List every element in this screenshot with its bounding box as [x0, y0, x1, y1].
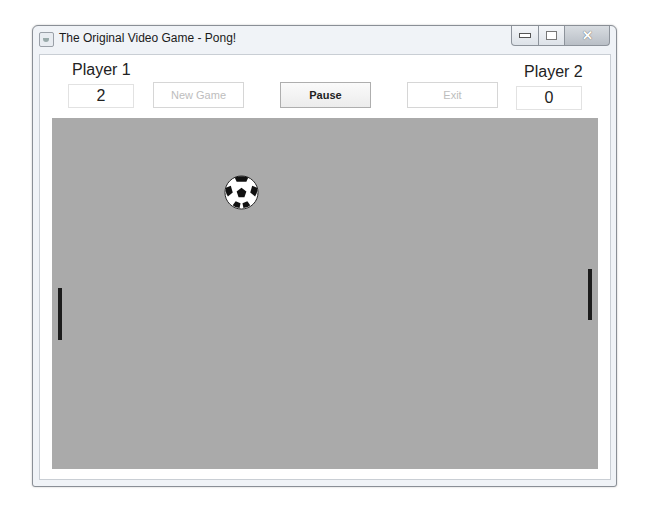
close-icon: ✕	[582, 28, 593, 43]
player1-score: 2	[68, 84, 134, 108]
left-paddle	[58, 288, 62, 340]
player1-label: Player 1	[72, 61, 131, 79]
title-bar[interactable]: The Original Video Game - Pong! ✕	[33, 26, 616, 54]
exit-button[interactable]: Exit	[407, 82, 498, 108]
minimize-icon	[519, 33, 531, 38]
soccer-ball-icon	[224, 175, 259, 210]
maximize-button[interactable]	[539, 26, 565, 46]
new-game-button[interactable]: New Game	[153, 82, 244, 108]
game-court[interactable]	[52, 118, 598, 469]
window-title: The Original Video Game - Pong!	[59, 31, 236, 45]
right-paddle	[588, 269, 592, 320]
game-window: The Original Video Game - Pong! ✕ Player…	[32, 25, 617, 487]
maximize-icon	[546, 31, 557, 40]
player2-score: 0	[516, 86, 582, 110]
pause-button[interactable]: Pause	[280, 82, 371, 108]
close-button[interactable]: ✕	[565, 26, 610, 46]
player2-label: Player 2	[524, 63, 583, 81]
client-area: Player 1 2 New Game Pause Exit Player 2 …	[39, 54, 611, 480]
java-app-icon	[39, 32, 54, 47]
minimize-button[interactable]	[511, 26, 539, 46]
window-controls: ✕	[511, 26, 610, 46]
